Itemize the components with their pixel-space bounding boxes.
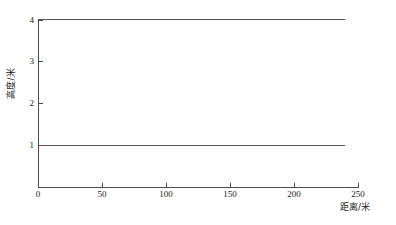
x-axis-tick-label-50: 50 <box>87 189 117 200</box>
y-axis-tick-4 <box>38 20 43 21</box>
x-axis-line <box>38 187 358 188</box>
y-axis-tick-label-3: 3 <box>22 56 34 66</box>
y-axis-tick-label-2: 2 <box>22 98 34 108</box>
x-axis-tick-250 <box>358 183 359 188</box>
line-chart: 0 50 100 150 200 250 1 2 3 4 高度/米 距离/米 <box>0 0 396 225</box>
x-axis-title: 距离/米 <box>340 202 370 213</box>
y-axis-tick-label-1: 1 <box>22 140 34 150</box>
x-axis-tick-label-150: 150 <box>215 189 245 200</box>
x-axis-tick-label-200: 200 <box>279 189 309 200</box>
y-axis-title: 高度/米 <box>6 61 17 107</box>
x-axis-tick-0 <box>38 183 39 188</box>
x-axis-tick-label-250: 250 <box>343 189 373 200</box>
series-line-lower <box>38 145 345 146</box>
x-axis-tick-200 <box>294 183 295 188</box>
x-axis-tick-50 <box>102 183 103 188</box>
y-axis-tick-label-4: 4 <box>22 15 34 25</box>
y-axis-tick-2 <box>38 103 43 104</box>
x-axis-tick-label-0: 0 <box>23 189 53 200</box>
y-axis-tick-3 <box>38 61 43 62</box>
x-axis-tick-150 <box>230 183 231 188</box>
series-line-upper <box>38 19 345 20</box>
x-axis-tick-100 <box>166 183 167 188</box>
x-axis-tick-label-100: 100 <box>151 189 181 200</box>
